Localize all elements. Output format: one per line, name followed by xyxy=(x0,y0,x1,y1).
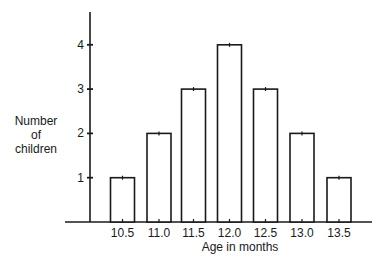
x-tick-label: 13.0 xyxy=(290,226,314,240)
x-axis-label: Age in months xyxy=(202,240,279,254)
x-tick-label: 12.5 xyxy=(254,226,278,240)
bar-11.5 xyxy=(182,89,206,222)
y-axis-label: Numberofchildren xyxy=(15,114,58,156)
x-tick-label: 12.0 xyxy=(218,226,242,240)
x-tick-label: 13.5 xyxy=(327,226,351,240)
x-tick-label: 11.5 xyxy=(182,226,205,240)
x-tick-label: 11.0 xyxy=(148,226,171,240)
y-tick-label: 4 xyxy=(77,38,84,52)
x-tick-label: 10.5 xyxy=(111,226,135,240)
bar-13.0 xyxy=(290,133,314,222)
bar-11.0 xyxy=(147,133,171,222)
y-tick-label: 1 xyxy=(77,171,84,185)
bar-10.5 xyxy=(111,178,135,222)
bar-12.5 xyxy=(254,89,278,222)
histogram-chart: 1234 10.511.011.512.012.513.013.5 Number… xyxy=(0,0,381,262)
bars xyxy=(111,43,352,222)
bar-12.0 xyxy=(218,45,242,222)
y-tick-label: 2 xyxy=(77,126,84,140)
bar-13.5 xyxy=(327,178,351,222)
y-tick-label: 3 xyxy=(77,82,84,96)
